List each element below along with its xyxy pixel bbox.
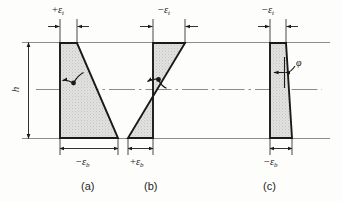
- panel-c-angle-label: φ: [296, 58, 302, 68]
- panel-c-top-strain-label: −εt: [262, 5, 274, 17]
- panel-a-bottom-strain-label: −εb: [76, 157, 90, 169]
- panel-a-top-strain-subscript: t: [62, 9, 64, 17]
- panel-c-bottom-strain-label: −εb: [264, 157, 278, 169]
- panel-b-strain-block: [128, 43, 185, 138]
- panel-c-diagram: [258, 19, 298, 155]
- panel-c-strain-block: [270, 43, 292, 138]
- panel-b-bottom-strain-subscript: b: [140, 161, 144, 169]
- panel-c-bottom-dimension: [270, 138, 292, 155]
- panel-b-top-dimension: [140, 19, 198, 44]
- panel-b-bottom-dimension: [128, 138, 153, 155]
- panel-b-caption: (b): [144, 181, 157, 192]
- panel-c-bottom-strain-subscript: b: [274, 161, 278, 169]
- panel-a-caption: (a): [81, 181, 94, 192]
- panel-a-bottom-dimension: [60, 138, 118, 155]
- panel-a-diagram: [48, 19, 118, 155]
- panel-c-top-dimension: [258, 19, 298, 44]
- panel-a-top-strain-label: +εt: [52, 5, 64, 17]
- height-label: h: [10, 83, 21, 97]
- panel-a-top-dimension: [48, 19, 89, 44]
- panel-a-bottom-strain-subscript: b: [86, 161, 90, 169]
- panel-c-caption: (c): [263, 181, 276, 192]
- panel-b-bottom-strain-label: +εb: [130, 157, 144, 169]
- panel-c-top-strain-subscript: t: [272, 9, 274, 17]
- panel-b-top-strain-label: −εt: [158, 5, 170, 17]
- panel-b-top-strain-subscript: t: [168, 9, 170, 17]
- panel-a-strain-block: [60, 43, 118, 138]
- panel-b-diagram: [128, 19, 198, 155]
- figure-canvas: [0, 0, 342, 202]
- strain-distribution-figure: h +εt −εb −εt +εb −εt −εb φ (a) (b) (c): [0, 0, 342, 202]
